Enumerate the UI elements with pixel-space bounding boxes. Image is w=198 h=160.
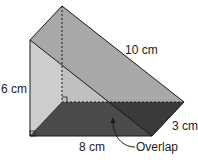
hypotenuse-label: 10 cm [125, 43, 158, 57]
base-label: 8 cm [79, 140, 105, 154]
prism-diagram: 6 cm 10 cm 8 cm 3 cm Overlap [0, 0, 198, 160]
height-label: 6 cm [1, 82, 27, 96]
depth-label: 3 cm [172, 119, 198, 133]
overlap-label: Overlap [136, 140, 178, 154]
